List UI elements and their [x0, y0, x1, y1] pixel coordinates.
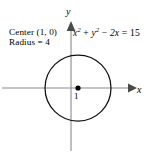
y-axis-label: y	[66, 6, 70, 17]
radius-annotation: Radius = 4	[9, 37, 57, 47]
annotation-text-layer: Center (1, 0) Radius = 4 x2 + y2 − 2x = …	[0, 0, 151, 155]
equation-linear-term: 2x	[110, 27, 119, 38]
equation-equals-operator: =	[119, 27, 130, 38]
equation-right-side: 15	[130, 27, 140, 38]
x-axis-label: x	[137, 84, 141, 95]
equation-annotation: x2 + y2 − 2x = 15	[73, 28, 140, 39]
circle-graph-figure: Center (1, 0) Radius = 4 x2 + y2 − 2x = …	[0, 0, 151, 155]
equation-minus-operator: −	[99, 27, 110, 38]
circle-info-block: Center (1, 0) Radius = 4	[9, 27, 57, 48]
center-tick-label: 1	[74, 91, 79, 101]
equation-plus-operator: +	[81, 27, 92, 38]
center-annotation: Center (1, 0)	[9, 27, 57, 37]
